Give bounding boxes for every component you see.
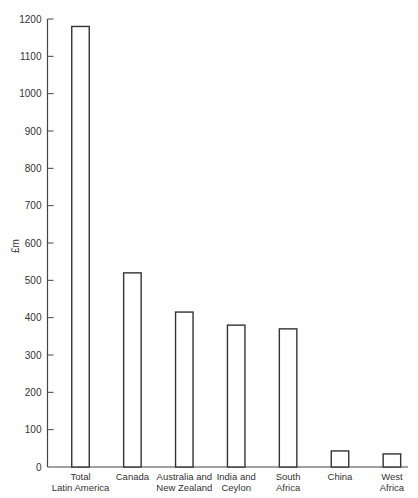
y-tick-label: 700 xyxy=(25,200,42,211)
y-tick-label: 1200 xyxy=(19,14,42,25)
bar-china xyxy=(331,451,349,467)
x-category-label: New Zealand xyxy=(156,482,212,493)
x-category-label: Africa xyxy=(380,482,405,493)
x-category-label: Total xyxy=(70,471,90,482)
x-category-label: Australia and xyxy=(157,471,212,482)
y-tick-label: 1100 xyxy=(20,51,42,62)
bar-south-africa xyxy=(279,329,297,467)
bars xyxy=(72,26,401,467)
bar-australia-and-new-zealand xyxy=(176,312,194,467)
x-category-label: West xyxy=(381,471,403,482)
bar-india-and-ceylon xyxy=(227,325,245,467)
bar-canada xyxy=(124,273,141,467)
x-category-label: Africa xyxy=(276,482,301,493)
y-tick-label: 800 xyxy=(25,163,42,174)
y-tick-label: 0 xyxy=(36,462,42,473)
y-tick-label: 100 xyxy=(25,424,42,435)
bar-total-latin-america xyxy=(72,26,90,467)
x-category-label: Latin America xyxy=(52,482,110,493)
y-tick-label: 200 xyxy=(25,387,42,398)
x-category-label: China xyxy=(328,471,354,482)
bar-chart: 0100200300400500600700800900100011001200… xyxy=(0,0,418,498)
x-category-label: Canada xyxy=(116,471,150,482)
y-axis-label: £m xyxy=(10,239,21,253)
y-tick-label: 600 xyxy=(25,238,42,249)
y-tick-label: 900 xyxy=(25,126,42,137)
y-tick-label: 300 xyxy=(25,350,42,361)
x-category-label: India and xyxy=(217,471,256,482)
y-tick-label: 400 xyxy=(25,312,42,323)
x-category-label: Ceylon xyxy=(221,482,251,493)
x-axis-labels: TotalLatin AmericaCanadaAustralia andNew… xyxy=(52,471,405,493)
y-tick-label: 500 xyxy=(25,275,42,286)
x-category-label: South xyxy=(276,471,301,482)
y-tick-label: 1000 xyxy=(19,88,42,99)
bar-west-africa xyxy=(383,454,401,467)
